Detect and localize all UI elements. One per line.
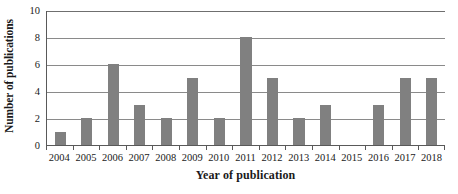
plot-area <box>46 11 445 146</box>
x-axis-tick-label: 2009 <box>179 151 206 165</box>
bars-layer <box>47 11 445 145</box>
bar-slot <box>259 11 286 145</box>
y-axis-tick-label: 4 <box>35 87 40 98</box>
bar <box>240 37 251 145</box>
x-axis-tick-label: 2006 <box>99 151 126 165</box>
bar <box>161 118 172 145</box>
bar-slot <box>286 11 313 145</box>
bar <box>373 105 384 146</box>
x-axis-tick-label: 2017 <box>392 151 419 165</box>
bar-slot <box>100 11 127 145</box>
y-axis-title-label: Number of publications <box>3 19 15 133</box>
bar-slot <box>339 11 366 145</box>
bar <box>81 118 92 145</box>
x-axis-tick-label: 2012 <box>259 151 286 165</box>
bar <box>426 78 437 146</box>
bar <box>214 118 225 145</box>
bar <box>187 78 198 146</box>
bar <box>267 78 278 146</box>
bar-slot <box>233 11 260 145</box>
bar <box>320 105 331 146</box>
bar-slot <box>180 11 207 145</box>
y-axis-tick-labels: 0246810 <box>18 5 43 152</box>
x-axis-tick-end <box>444 146 445 150</box>
y-axis-title: Number of publications <box>0 0 18 152</box>
x-axis-tick-label: 2013 <box>285 151 312 165</box>
bar <box>293 118 304 145</box>
x-axis-tick-labels: 2004200520062007200820092010201120122013… <box>46 151 445 165</box>
x-axis-tick-label: 2008 <box>152 151 179 165</box>
bar-slot <box>206 11 233 145</box>
y-axis-tick-label: 6 <box>35 60 40 71</box>
x-axis-tick-label: 2016 <box>365 151 392 165</box>
x-axis-title: Year of publication <box>46 168 445 183</box>
bar-slot <box>365 11 392 145</box>
bar-slot <box>392 11 419 145</box>
y-axis-tick-label: 10 <box>30 6 41 17</box>
bar <box>108 64 119 145</box>
x-axis-tick-label: 2007 <box>126 151 153 165</box>
x-axis-tick-label: 2011 <box>232 151 259 165</box>
bar <box>134 105 145 146</box>
bar <box>55 132 66 146</box>
bar <box>400 78 411 146</box>
bar-slot <box>74 11 101 145</box>
publications-per-year-bar-chart: Number of publications 0246810 200420052… <box>0 0 458 194</box>
bar-slot <box>153 11 180 145</box>
y-axis-tick-label: 8 <box>35 33 40 44</box>
x-axis-tick-label: 2010 <box>206 151 233 165</box>
y-axis-tick-label: 2 <box>35 114 40 125</box>
x-axis-tick-label: 2004 <box>46 151 73 165</box>
bar-slot <box>47 11 74 145</box>
x-axis-tick-label: 2015 <box>339 151 366 165</box>
x-axis-tick-label: 2018 <box>418 151 445 165</box>
bar-slot <box>418 11 445 145</box>
y-axis-tick-label: 0 <box>35 141 40 152</box>
bar-slot <box>127 11 154 145</box>
x-axis-tick-label: 2014 <box>312 151 339 165</box>
x-axis-tick-label: 2005 <box>73 151 100 165</box>
bar-slot <box>312 11 339 145</box>
